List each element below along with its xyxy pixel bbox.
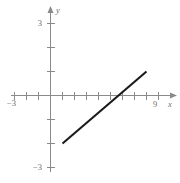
y-axis-top-label: 3: [38, 18, 42, 28]
plot-svg: −3 9 3 −3 x y: [0, 0, 180, 183]
x-axis-right-label: 9: [153, 99, 157, 109]
x-axis-arrow-icon: [170, 93, 177, 99]
y-axis-arrow-icon: [48, 6, 54, 13]
y-axis-group: [48, 6, 54, 172]
x-axis-left-label: −3: [7, 98, 16, 108]
x-axis-group: [11, 93, 178, 99]
line-segment: [63, 72, 147, 144]
coordinate-plane-figure: −3 9 3 −3 x y: [0, 0, 180, 183]
y-axis-name-label: y: [55, 5, 60, 15]
x-axis-name-label: x: [167, 99, 172, 109]
y-axis-bottom-label: −3: [33, 162, 42, 172]
